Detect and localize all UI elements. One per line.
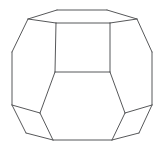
face-front-hexagon	[40, 72, 125, 140]
face-front-square	[55, 23, 110, 72]
truncated-octahedron-figure	[0, 0, 165, 157]
faces-group	[12, 10, 152, 140]
figure-canvas	[0, 0, 165, 157]
